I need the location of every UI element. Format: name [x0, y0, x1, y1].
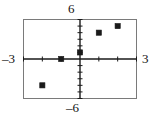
data-point: [96, 30, 101, 35]
data-point: [115, 23, 120, 28]
data-point: [77, 50, 82, 55]
scatter-plot-figure: 6 –6 –3 3: [0, 0, 156, 119]
data-point: [59, 56, 64, 61]
plot-canvas: [0, 0, 156, 119]
data-point: [40, 83, 45, 88]
